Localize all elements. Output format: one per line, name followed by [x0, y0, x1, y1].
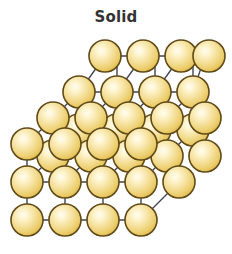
lattice-particle [49, 166, 81, 198]
lattice-particle [49, 204, 81, 236]
solid-state-figure: Solid [0, 0, 232, 254]
lattice-particle [189, 102, 221, 134]
lattice-particle [163, 166, 195, 198]
lattice-particle [89, 40, 121, 72]
lattice-particle [87, 166, 119, 198]
crystal-lattice-diagram [0, 0, 232, 254]
lattice-particle [125, 166, 157, 198]
lattice-particle [87, 128, 119, 160]
lattice-particle [11, 204, 43, 236]
lattice-particle [165, 40, 197, 72]
lattice-particle [193, 40, 225, 72]
lattice-particle [127, 40, 159, 72]
lattice-particle [125, 128, 157, 160]
lattice-particle [11, 128, 43, 160]
lattice-particle [87, 204, 119, 236]
lattice-particle [49, 128, 81, 160]
lattice-particle [125, 204, 157, 236]
lattice-particle [189, 140, 221, 172]
lattice-particle [151, 102, 183, 134]
lattice-particle [11, 166, 43, 198]
